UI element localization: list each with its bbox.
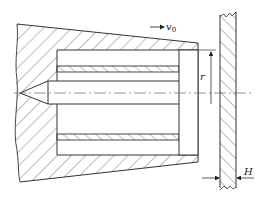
thickness-label: H bbox=[243, 166, 253, 177]
velocity-label: v0 bbox=[166, 21, 176, 34]
target-plate-body bbox=[220, 15, 236, 188]
cavity-outline bbox=[57, 50, 198, 81]
velocity-indicator: v0 bbox=[150, 21, 176, 34]
cavity-outline-lower bbox=[57, 104, 198, 155]
liner bbox=[57, 66, 179, 140]
rod-body bbox=[48, 81, 179, 104]
projectile-body bbox=[15, 24, 198, 182]
radius-label: r bbox=[200, 71, 206, 82]
target-plate bbox=[220, 12, 236, 190]
front-face bbox=[179, 50, 198, 155]
cross-section-diagram: r v0 H bbox=[0, 0, 268, 204]
liner-upper bbox=[57, 66, 179, 72]
liner-lower bbox=[57, 134, 179, 140]
radius-dimension: r bbox=[198, 50, 216, 104]
